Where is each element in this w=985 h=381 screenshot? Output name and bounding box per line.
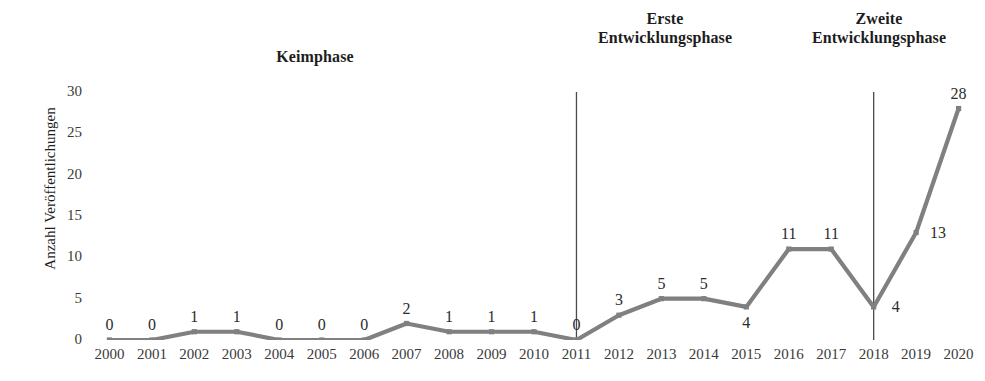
data-value-label: 0 (557, 316, 597, 333)
data-value-label: 11 (769, 225, 809, 242)
y-tick-label: 5 (42, 291, 82, 306)
y-tick-label: 30 (42, 84, 82, 99)
data-value-labels: 0011000211103554111141328 (92, 92, 976, 340)
phase-erste-line2: Entwicklungsphase (598, 29, 732, 46)
data-value-label: 1 (429, 308, 469, 325)
phase-label-erste-entwicklungsphase: ErsteEntwicklungsphase (540, 9, 790, 47)
phase-zweite-line1: Zweite (856, 10, 903, 27)
data-value-label: 4 (876, 298, 916, 315)
y-tick-label: 0 (42, 332, 82, 347)
data-value-label: 0 (259, 316, 299, 333)
data-value-label: 4 (726, 314, 766, 331)
data-value-label: 3 (599, 291, 639, 308)
y-tick-label: 15 (42, 208, 82, 223)
data-value-label: 1 (217, 308, 257, 325)
data-value-label: 1 (514, 308, 554, 325)
data-value-label: 2 (387, 300, 427, 317)
data-value-label: 0 (89, 316, 129, 333)
data-value-label: 0 (132, 316, 172, 333)
y-tick-label: 10 (42, 249, 82, 264)
data-value-label: 5 (684, 275, 724, 292)
publication-count-line-chart: Keimphase ErsteEntwicklungsphase ZweiteE… (0, 0, 985, 381)
data-value-label: 1 (174, 308, 214, 325)
data-value-label: 0 (344, 316, 384, 333)
data-value-label: 13 (918, 224, 958, 241)
phase-erste-line1: Erste (647, 10, 684, 27)
data-value-label: 11 (811, 225, 851, 242)
data-value-label: 5 (641, 275, 681, 292)
phase-zweite-line2: Entwicklungsphase (812, 29, 946, 46)
y-tick-label: 25 (42, 125, 82, 140)
y-axis-tick-labels: 302520151050 (42, 0, 82, 381)
x-tick-label: 2020 (933, 345, 985, 363)
phase-label-zweite-entwicklungsphase: ZweiteEntwicklungsphase (773, 9, 985, 47)
y-tick-label: 20 (42, 167, 82, 182)
x-axis-tick-labels: 2000200120022003200420052006200720082009… (92, 345, 976, 367)
data-value-label: 0 (302, 316, 342, 333)
data-value-label: 28 (939, 85, 979, 102)
phase-label-keimphase: Keimphase (170, 47, 460, 66)
data-value-label: 1 (472, 308, 512, 325)
